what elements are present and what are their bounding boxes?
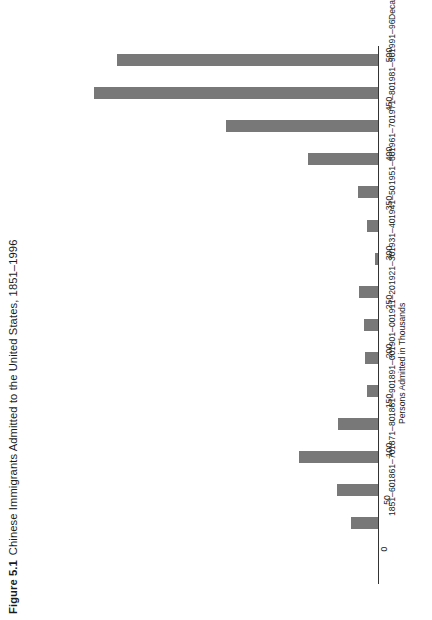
- bar-1881-90: [46, 418, 378, 430]
- value-axis-title-text: Persons Admitted in Thousands: [397, 303, 407, 424]
- category-label-text: 1971–80: [387, 86, 397, 119]
- bar-1891-00: [46, 385, 378, 397]
- chart-plot-area: 050100150200250300350400450500 1991–9619…: [46, 34, 432, 620]
- bar-1991-96: [46, 54, 378, 66]
- bar-fill: [308, 153, 378, 165]
- bar-fill: [299, 451, 378, 463]
- bar-1911-20: [46, 319, 378, 331]
- bar-fill: [375, 253, 378, 265]
- category-axis-title: Decade: [380, 20, 432, 34]
- value-axis-title: Persons Admitted in Thousands: [395, 248, 411, 428]
- bar-fill: [364, 319, 378, 331]
- category-label-text: 1851–60: [387, 483, 397, 516]
- bar-fill: [365, 352, 378, 364]
- bar-fill: [351, 517, 378, 529]
- category-label-text: 1951–60: [387, 152, 397, 185]
- category-axis-line: [378, 46, 379, 584]
- bar-1901-00: [46, 352, 378, 364]
- bar-1851-60: [46, 517, 378, 529]
- bar-1951-60: [46, 186, 378, 198]
- category-label: 1851–60: [380, 516, 432, 530]
- figure-caption: Chinese Immigrants Admitted to the Unite…: [7, 240, 19, 556]
- figure-title: Figure 5.1 Chinese Immigrants Admitted t…: [0, 0, 26, 620]
- bar-1931-40: [46, 253, 378, 265]
- bar-fill: [94, 87, 378, 99]
- bar-1861-70: [46, 484, 378, 496]
- category-label-text: 1961–70: [387, 119, 397, 152]
- bar-1981-90: [46, 87, 378, 99]
- bar-fill: [367, 220, 378, 232]
- category-axis-title-text: Decade: [387, 0, 397, 20]
- bar-1921-30: [46, 286, 378, 298]
- bar-fill: [226, 120, 378, 132]
- bar-fill: [337, 484, 378, 496]
- value-tick-label: 0: [379, 547, 389, 552]
- bar-fill: [359, 286, 378, 298]
- bar-1961-70: [46, 153, 378, 165]
- bar-fill: [338, 418, 378, 430]
- category-label-text: 1981–90: [387, 53, 397, 86]
- figure-number: Figure 5.1: [7, 560, 19, 614]
- bar-1971-80: [46, 120, 378, 132]
- bar-fill: [117, 54, 378, 66]
- bar-fill: [367, 385, 378, 397]
- category-label-text: 1861–70: [387, 450, 397, 483]
- bar-1871-80: [46, 451, 378, 463]
- bar-fill: [358, 186, 378, 198]
- category-label-text: 1931–40: [387, 218, 397, 251]
- value-tick-0: 0: [382, 542, 426, 556]
- category-label-text: 1941–50: [387, 185, 397, 218]
- bar-1941-50: [46, 220, 378, 232]
